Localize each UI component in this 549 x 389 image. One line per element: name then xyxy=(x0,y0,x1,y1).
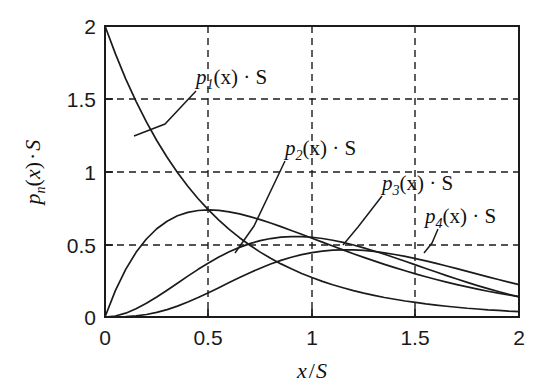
curve-label-p4: p4(x) · S xyxy=(423,204,496,231)
curve-label-p3: p3(x) · S xyxy=(380,171,453,198)
x-axis-title-slash: / xyxy=(309,358,316,383)
y-axis-title-unit: S xyxy=(20,140,45,151)
svg-text:x/S: x/S xyxy=(296,358,327,383)
ytick-label-0.5: 0.5 xyxy=(67,234,96,257)
curve-label-p1-sub: 1 xyxy=(207,77,214,92)
curve-label-p4-sub: 4 xyxy=(436,216,443,231)
y-axis-title-paren-close: ) xyxy=(20,162,45,169)
ytick-label-0: 0 xyxy=(84,306,96,329)
chart-figure: 2 1.5 1 0.5 0 0 0.5 1 1.5 2 x/S pn(x)·S xyxy=(0,0,549,389)
curve-label-p1-rest: (x) · S xyxy=(214,65,268,89)
ytick-label-2: 2 xyxy=(84,15,96,38)
chart-background xyxy=(0,0,549,389)
curve-label-p3-p: p xyxy=(380,171,393,195)
xtick-label-1.5: 1.5 xyxy=(400,326,429,349)
x-axis-title: x/S xyxy=(296,358,327,383)
xtick-label-0.5: 0.5 xyxy=(193,326,222,349)
ytick-label-1: 1 xyxy=(84,161,96,184)
xtick-label-1: 1 xyxy=(306,326,318,349)
curve-label-p4-p: p xyxy=(423,204,436,228)
ytick-label-1.5: 1.5 xyxy=(67,88,96,111)
curve-label-p4-rest: (x) · S xyxy=(443,204,497,228)
y-axis-title-sub: n xyxy=(33,186,48,193)
chart-svg: 2 1.5 1 0.5 0 0 0.5 1 1.5 2 x/S pn(x)·S xyxy=(0,0,549,389)
curve-label-p2: p2(x) · S xyxy=(283,136,356,163)
svg-text:pn(x)·S: pn(x)·S xyxy=(20,140,48,207)
curve-label-p3-sub: 3 xyxy=(392,183,400,198)
curve-label-p1: p1(x) · S xyxy=(194,65,267,92)
y-axis-title-var: x xyxy=(20,169,45,180)
x-axis-title-unit: S xyxy=(316,358,327,383)
curve-label-p2-p: p xyxy=(283,136,296,160)
y-axis-title-dot: · xyxy=(20,153,45,160)
x-axis-title-var: x xyxy=(296,358,307,383)
xtick-label-0: 0 xyxy=(99,326,111,349)
curve-label-p2-rest: (x) · S xyxy=(303,136,357,160)
curve-label-p2-sub: 2 xyxy=(296,148,303,163)
curve-label-p1-p: p xyxy=(194,65,207,89)
xtick-label-2: 2 xyxy=(513,326,525,349)
y-axis-title-p: p xyxy=(20,193,45,206)
y-axis-title: pn(x)·S xyxy=(20,140,48,207)
y-axis-title-paren-open: ( xyxy=(20,179,45,186)
curve-label-p3-rest: (x) · S xyxy=(400,171,454,195)
